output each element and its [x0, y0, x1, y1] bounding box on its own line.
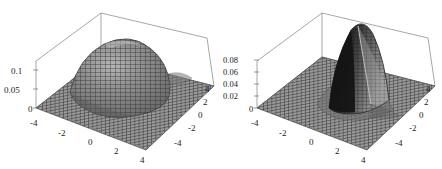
- z-tick-label: 0: [249, 104, 253, 114]
- x-tick-label: 4: [140, 155, 145, 165]
- z-tick-label: 0.04: [223, 79, 239, 89]
- right-plot-z-axis: 0.08 0.06 0.04 0.02 0: [223, 55, 259, 114]
- x-tick-label: 0: [309, 137, 314, 147]
- y-tick-label: 2: [203, 97, 208, 107]
- y-tick-label: 4: [205, 84, 210, 94]
- z-tick-label: 0.1: [11, 66, 22, 76]
- left-plot-z-axis: 0.1 0.05 0: [4, 66, 38, 114]
- y-tick-label: 4: [426, 84, 431, 94]
- y-tick-label: -2: [188, 123, 196, 133]
- figure-container: 0.1 0.05 0 -4 -2 0 2 4 4: [0, 0, 442, 169]
- y-tick-label: -2: [409, 123, 417, 133]
- x-tick-label: -2: [58, 128, 66, 138]
- z-tick-label: 0: [28, 104, 33, 114]
- x-tick-label: 4: [361, 155, 366, 165]
- left-surface-plot: 0.1 0.05 0 -4 -2 0 2 4 4: [0, 0, 221, 169]
- y-tick-label: -4: [174, 138, 182, 148]
- x-tick-label: 2: [335, 146, 340, 156]
- x-tick-label: -2: [279, 128, 287, 138]
- x-tick-label: -4: [30, 118, 38, 128]
- x-tick-label: 2: [114, 146, 119, 156]
- z-tick-label: 0.05: [4, 85, 20, 95]
- y-tick-label: 0: [198, 110, 203, 120]
- right-plot-canvas: 0.08 0.06 0.04 0.02 0 -4 -2 0 2 4: [221, 0, 442, 169]
- left-plot-canvas: 0.1 0.05 0 -4 -2 0 2 4 4: [0, 0, 221, 169]
- y-tick-label: 2: [424, 97, 429, 107]
- z-tick-label: 0.08: [223, 55, 238, 65]
- x-tick-label: 0: [88, 137, 93, 147]
- y-tick-label: 0: [419, 110, 424, 120]
- y-tick-label: -4: [395, 138, 403, 148]
- x-tick-label: -4: [251, 118, 259, 128]
- z-tick-label: 0.02: [223, 91, 238, 101]
- z-tick-label: 0.06: [223, 67, 238, 77]
- right-surface-plot: 0.08 0.06 0.04 0.02 0 -4 -2 0 2 4: [221, 0, 442, 169]
